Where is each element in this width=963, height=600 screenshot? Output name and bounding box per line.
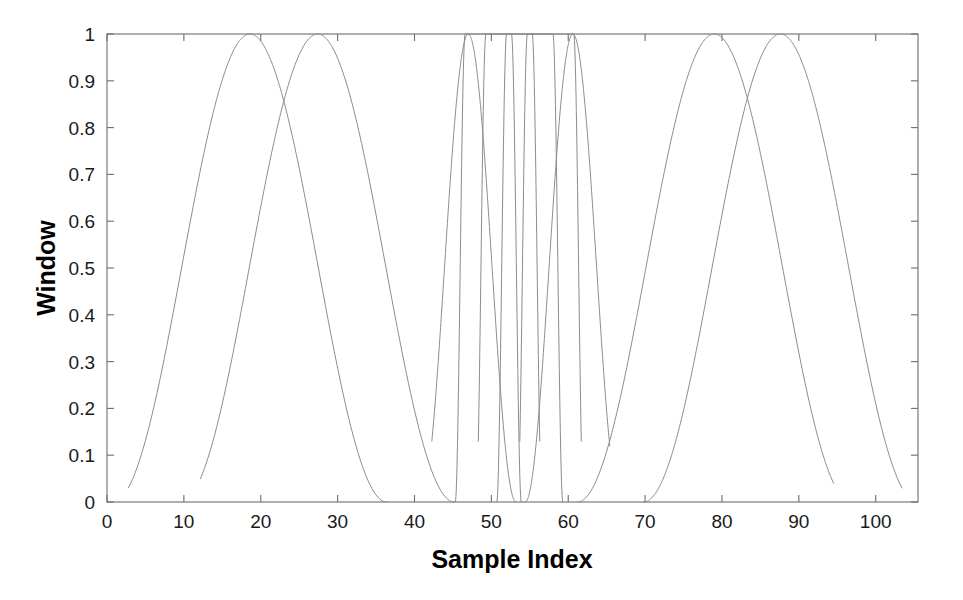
window-curve: [497, 34, 563, 502]
x-axis-title: Sample Index: [431, 545, 592, 573]
x-tick-label: 60: [558, 511, 579, 532]
y-tick-label: 0.3: [69, 352, 95, 373]
y-axis-title: Window: [32, 220, 60, 316]
plot-canvas: 0102030405060708090100 00.10.20.30.40.50…: [0, 0, 963, 600]
window-function-figure: 0102030405060708090100 00.10.20.30.40.50…: [0, 0, 963, 600]
window-curve: [128, 34, 387, 502]
x-axis-ticks: [107, 34, 876, 502]
window-curve: [577, 34, 833, 502]
plot-frame: [107, 34, 918, 502]
x-tick-label: 80: [711, 511, 732, 532]
x-tick-label: 40: [404, 511, 425, 532]
x-tick-label: 30: [327, 511, 348, 532]
y-tick-label: 0: [84, 492, 95, 513]
y-tick-label: 0.5: [69, 258, 95, 279]
x-tick-label: 100: [860, 511, 892, 532]
window-curve: [644, 34, 903, 502]
y-axis-ticks: [107, 34, 918, 502]
x-tick-label: 50: [481, 511, 502, 532]
y-tick-label: 0.6: [69, 211, 95, 232]
window-curve: [200, 34, 454, 502]
x-tick-label: 20: [250, 511, 271, 532]
window-curve: [432, 34, 516, 502]
x-axis-tick-labels: 0102030405060708090100: [102, 511, 892, 532]
x-tick-label: 90: [788, 511, 809, 532]
x-tick-label: 0: [102, 511, 113, 532]
y-tick-label: 1: [84, 24, 95, 45]
window-curve: [478, 34, 539, 441]
y-tick-label: 0.2: [69, 398, 95, 419]
window-curve: [455, 34, 521, 502]
y-tick-label: 0.8: [69, 118, 95, 139]
window-curve: [525, 34, 610, 502]
x-tick-label: 70: [635, 511, 656, 532]
y-tick-label: 0.4: [69, 305, 96, 326]
y-axis-tick-labels: 00.10.20.30.40.50.60.70.80.91: [69, 24, 96, 513]
y-tick-label: 0.9: [69, 71, 95, 92]
x-tick-label: 10: [173, 511, 194, 532]
window-curves: [128, 34, 902, 502]
y-tick-label: 0.1: [69, 445, 95, 466]
y-tick-label: 0.7: [69, 164, 95, 185]
